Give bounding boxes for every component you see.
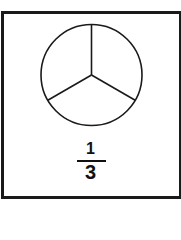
divider-line-left [48, 75, 92, 100]
fraction-numerator: 1 [0, 141, 181, 157]
divider-line-right [92, 75, 136, 100]
fraction-denominator: 3 [0, 162, 181, 182]
